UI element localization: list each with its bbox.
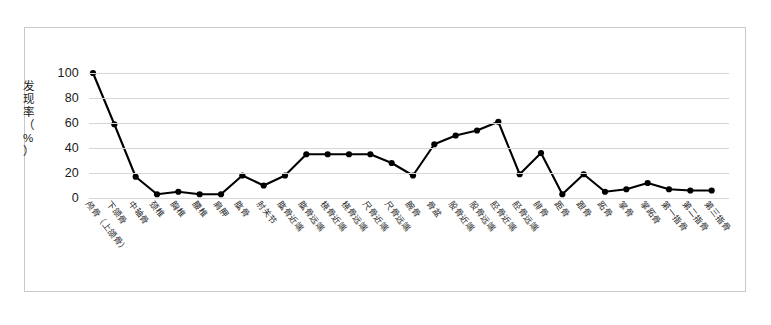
x-axis-tick-22: 距骨: [553, 200, 571, 219]
gridline: [89, 148, 729, 149]
series-polyline: [93, 73, 712, 194]
x-axis-tick-16: 骨盆: [425, 200, 443, 219]
x-axis-tick-4: 胸椎: [169, 200, 187, 219]
data-point: [303, 151, 309, 157]
data-point: [474, 127, 480, 133]
data-point: [431, 141, 437, 147]
data-point: [325, 151, 331, 157]
x-axis-tick-2: 中轴骨: [127, 200, 150, 226]
data-point: [218, 191, 224, 197]
x-axis-tick-5: 腰椎: [191, 200, 209, 219]
y-axis-tick-1: 20: [65, 166, 79, 180]
gridline: [89, 98, 729, 99]
data-point: [666, 186, 672, 192]
data-point: [538, 150, 544, 156]
gridline: [89, 198, 729, 199]
data-point: [453, 132, 459, 138]
x-axis-tick-24: 跖骨: [596, 200, 614, 219]
gridline: [89, 73, 729, 74]
y-axis-tick-4: 80: [65, 91, 79, 105]
y-axis-tick-0: 0: [72, 191, 79, 205]
x-axis-tick-26: 掌跖骨: [639, 200, 662, 226]
data-point: [602, 189, 608, 195]
y-axis-tick-3: 60: [65, 116, 79, 130]
y-axis-tick-2: 40: [65, 141, 79, 155]
y-axis-tick-5: 100: [58, 66, 79, 80]
data-point: [389, 160, 395, 166]
data-point: [197, 191, 203, 197]
y-axis-tick-labels: 020406080100: [25, 73, 85, 198]
x-axis-tick-labels: 颅骨（上颌骨）下颌骨中轴骨颈椎胸椎腰椎肩胛肱骨肘关节肱骨近端肱骨远端桡骨近端桡骨…: [89, 200, 729, 288]
data-point: [709, 187, 715, 193]
series-line-chart: [89, 73, 729, 198]
x-axis-tick-7: 肱骨: [233, 200, 251, 219]
data-point: [261, 182, 267, 188]
x-axis-tick-25: 掌骨: [617, 200, 635, 219]
data-point: [133, 174, 139, 180]
x-axis-tick-15: 腕骨: [404, 200, 422, 219]
x-axis-tick-3: 颈椎: [148, 200, 166, 219]
data-point: [623, 186, 629, 192]
x-axis-tick-8: 肘关节: [255, 200, 278, 226]
x-axis-tick-6: 肩胛: [212, 200, 230, 219]
plot-area: [89, 73, 729, 198]
data-point: [346, 151, 352, 157]
data-point: [154, 191, 160, 197]
data-point: [175, 189, 181, 195]
data-point: [645, 180, 651, 186]
data-point: [687, 187, 693, 193]
data-point: [367, 151, 373, 157]
x-axis-tick-23: 跟骨: [575, 200, 593, 219]
chart-figure: 发 现 率 （ % ） 020406080100 颅骨（上颌骨）下颌骨中轴骨颈椎…: [24, 27, 746, 292]
x-axis-tick-21: 腓骨: [532, 200, 550, 219]
gridline: [89, 123, 729, 124]
gridline: [89, 173, 729, 174]
data-point: [559, 191, 565, 197]
